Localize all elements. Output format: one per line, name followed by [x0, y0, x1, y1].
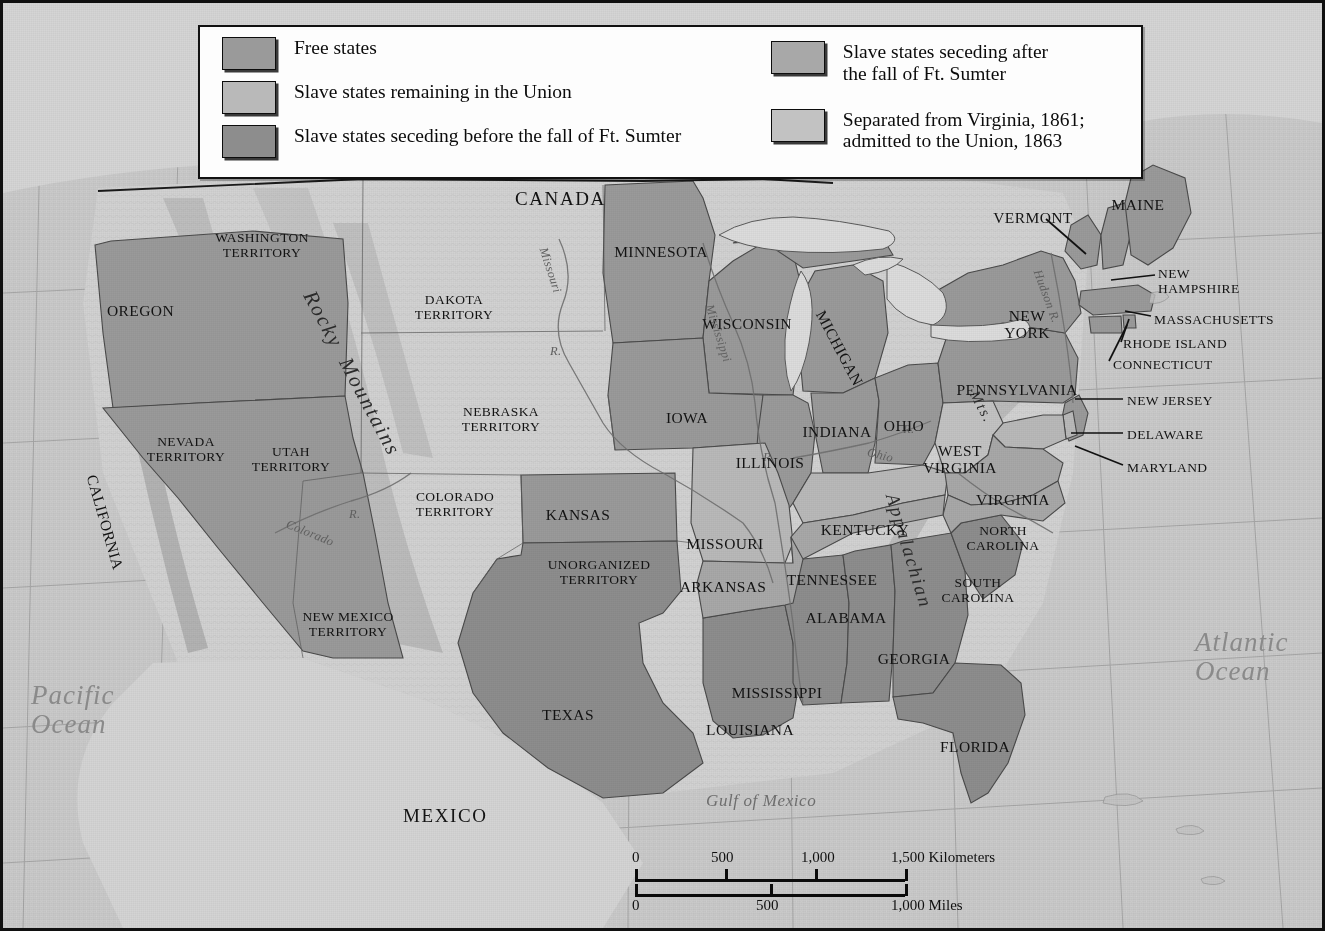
scalebar-tick — [905, 884, 908, 896]
legend-swatch — [771, 41, 825, 74]
map-scalebar: 05001,0001,500 Kilometers 05001,000 Mile… — [635, 849, 965, 927]
scalebar-tick-label: 500 — [756, 897, 779, 914]
legend-label: Slave states remaining in the Union — [294, 81, 572, 103]
map-legend: Free states Slave states remaining in th… — [198, 25, 1143, 179]
legend-column-left: Free states Slave states remaining in th… — [200, 37, 753, 177]
scalebar-tick-label: 500 — [711, 849, 734, 866]
scalebar-tick — [635, 884, 638, 896]
legend-item: Slave states seceding before the fall of… — [222, 125, 753, 158]
scalebar-tick — [770, 884, 773, 896]
scalebar-km-bar — [635, 869, 965, 882]
scalebar-tick-label: 0 — [632, 849, 640, 866]
scalebar-tick — [905, 869, 908, 881]
scalebar-tick-label: 1,500 Kilometers — [891, 849, 995, 866]
legend-item: Slave states remaining in the Union — [222, 81, 753, 114]
legend-column-right: Slave states seceding afterthe fall of F… — [753, 37, 1141, 177]
scalebar-mi-labels: 05001,000 Miles — [635, 897, 965, 916]
scalebar-tick — [635, 869, 638, 881]
legend-swatch — [222, 125, 276, 158]
legend-label: Free states — [294, 37, 377, 59]
legend-item: Free states — [222, 37, 753, 70]
scalebar-tick-label: 0 — [632, 897, 640, 914]
legend-item: Separated from Virginia, 1861;admitted t… — [771, 109, 1141, 153]
legend-item: Slave states seceding afterthe fall of F… — [771, 41, 1141, 85]
scalebar-km-labels: 05001,0001,500 Kilometers — [635, 849, 965, 868]
legend-swatch — [222, 81, 276, 114]
scalebar-tick-label: 1,000 Miles — [891, 897, 963, 914]
scalebar-mi-bar — [635, 884, 965, 897]
legend-swatch — [222, 37, 276, 70]
legend-label: Separated from Virginia, 1861;admitted t… — [843, 109, 1085, 153]
scalebar-tick — [725, 869, 728, 881]
map-frame: CANADAMEXICOPacificOceanAtlanticOceanGul… — [0, 0, 1325, 931]
scalebar-tick-label: 1,000 — [801, 849, 835, 866]
legend-swatch — [771, 109, 825, 142]
map-page: CANADAMEXICOPacificOceanAtlanticOceanGul… — [0, 0, 1325, 931]
legend-label: Slave states seceding afterthe fall of F… — [843, 41, 1048, 85]
legend-label: Slave states seceding before the fall of… — [294, 125, 681, 147]
scalebar-tick — [815, 869, 818, 881]
scalebar-axis — [635, 879, 905, 882]
